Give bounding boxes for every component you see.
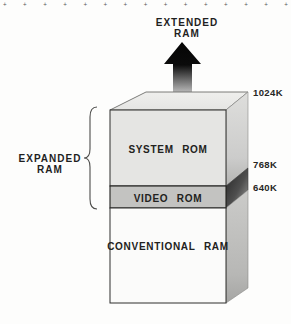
box-side-conventional-ram: [226, 190, 248, 303]
extended-ram-label-line2: RAM: [174, 28, 200, 39]
expanded-ram-brace: [84, 107, 97, 209]
video-rom-label: VIDEO ROM: [134, 193, 203, 204]
expanded-ram-label-line1: EXPANDED: [19, 153, 82, 164]
up-arrow-icon: [164, 42, 201, 93]
memory-diagram: EXTENDED RAM SYSTEM ROM VIDEO ROM CONVEN…: [0, 0, 291, 324]
diagram-page: +++++++++++++++: [0, 0, 291, 324]
conventional-ram-section: [110, 208, 226, 303]
conventional-ram-label: CONVENTIONAL RAM: [107, 241, 229, 252]
box-top-face: [110, 92, 248, 110]
capacity-label-1024k: 1024K: [253, 87, 283, 98]
capacity-label-768k: 768K: [253, 159, 277, 170]
expanded-ram-label-line2: RAM: [37, 164, 63, 175]
extended-ram-label-line1: EXTENDED: [156, 17, 218, 28]
capacity-label-640k: 640K: [253, 182, 277, 193]
system-rom-label: SYSTEM ROM: [128, 144, 207, 155]
